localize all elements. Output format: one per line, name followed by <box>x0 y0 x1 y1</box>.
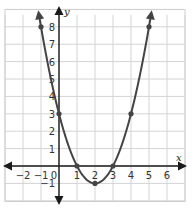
data-point <box>92 181 97 186</box>
data-point <box>74 163 79 168</box>
parabola-graph: x y −2−10123456 −112345678 <box>0 0 193 212</box>
y-tick-label: 3 <box>49 109 55 120</box>
y-axis-up-arrow-icon <box>55 6 64 15</box>
curve-left-arrow-icon <box>35 10 44 20</box>
data-point <box>128 111 133 116</box>
y-tick-label: 8 <box>49 22 55 33</box>
y-tick-label: 1 <box>49 144 55 155</box>
x-axis-left-arrow-icon <box>3 162 12 171</box>
data-point <box>146 24 151 29</box>
x-tick-labels: −2−10123456 <box>16 170 171 181</box>
x-tick-label: 6 <box>164 170 170 181</box>
x-axis-label: x <box>176 152 182 163</box>
y-tick-label: 2 <box>49 126 55 137</box>
data-point <box>110 163 115 168</box>
y-tick-label: 6 <box>49 57 55 68</box>
x-tick-label: −2 <box>16 170 31 181</box>
curve-right-arrow-icon <box>146 10 155 20</box>
data-point <box>38 24 43 29</box>
y-tick-label: −1 <box>40 178 55 189</box>
data-point <box>56 111 61 116</box>
y-tick-labels: −112345678 <box>40 22 55 190</box>
y-tick-label: 7 <box>49 39 55 50</box>
y-axis-label: y <box>63 6 70 17</box>
x-tick-label: 5 <box>146 170 152 181</box>
x-tick-label: 4 <box>128 170 134 181</box>
x-tick-label: 2 <box>92 170 98 181</box>
